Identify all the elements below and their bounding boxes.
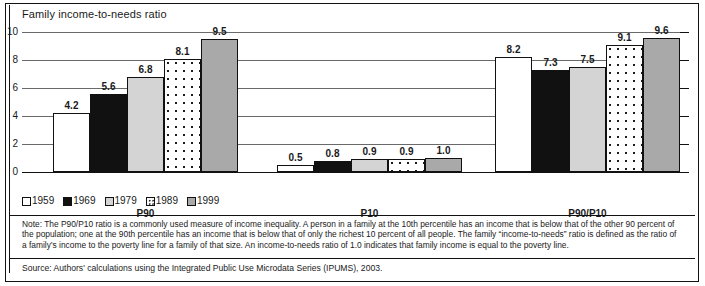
bar-1959-P90-P10[interactable]: [495, 57, 532, 172]
plot-area: 0246810P904.25.66.88.19.5P100.50.80.90.9…: [22, 32, 680, 172]
bar-1969-P10[interactable]: [314, 161, 351, 172]
divider-above-note: [10, 215, 695, 216]
figure-source: Source: Authors' calculations using the …: [22, 263, 682, 273]
bar-value-label: 8.2: [489, 45, 538, 55]
y-axis-tick-label: 0: [2, 167, 18, 177]
bar-1979-P90[interactable]: [127, 77, 164, 172]
plot-canvas: 0246810P904.25.66.88.19.5P100.50.80.90.9…: [22, 32, 680, 172]
y-axis-tick-mark: [680, 60, 689, 61]
y-axis-tick-label: 6: [2, 83, 18, 93]
bar-group: 4.25.66.88.19.5: [53, 32, 238, 172]
bar-value-label: 5.6: [84, 82, 133, 92]
legend-swatch-icon: [187, 197, 196, 206]
axis-baseline: [22, 172, 680, 173]
y-axis-tick-label: 2: [2, 139, 18, 149]
chart-title: Family income-to-needs ratio: [22, 8, 167, 20]
y-axis-tick-label: 8: [2, 55, 18, 65]
bar-1959-P90[interactable]: [53, 113, 90, 172]
bar-1959-P10[interactable]: [277, 165, 314, 172]
legend-swatch-icon: [105, 197, 114, 206]
bar-1979-P90-P10[interactable]: [569, 67, 606, 172]
y-axis-tick-label: 4: [2, 111, 18, 121]
bar-1999-P90-P10[interactable]: [643, 38, 680, 172]
legend-swatch-icon: [63, 197, 72, 206]
bar-value-label: 4.2: [47, 101, 96, 111]
legend-swatch-icon: [146, 197, 155, 206]
bar-group: 0.50.80.90.91.0: [277, 32, 462, 172]
bar-value-label: 1.0: [419, 146, 468, 156]
bar-1989-P90[interactable]: [164, 59, 201, 172]
bar-1989-P10[interactable]: [388, 159, 425, 172]
legend-item-1959[interactable]: 1959: [22, 196, 54, 206]
chart-legend: 19591969197919891999: [22, 196, 219, 206]
bar-group: 8.27.37.59.19.6: [495, 32, 680, 172]
bar-1979-P10[interactable]: [351, 159, 388, 172]
legend-label: 1969: [73, 196, 95, 206]
legend-item-1999[interactable]: 1999: [187, 196, 219, 206]
legend-swatch-icon: [22, 197, 31, 206]
bar-1969-P90[interactable]: [90, 94, 127, 172]
legend-item-1989[interactable]: 1989: [146, 196, 178, 206]
legend-item-1979[interactable]: 1979: [105, 196, 137, 206]
x-axis-group-label: P10: [277, 208, 462, 219]
bar-value-label: 9.6: [637, 26, 686, 36]
legend-item-1969[interactable]: 1969: [63, 196, 95, 206]
figure-note: Note: The P90/P10 ratio is a commonly us…: [22, 219, 682, 250]
bar-1969-P90-P10[interactable]: [532, 70, 569, 172]
y-axis-tick-mark: [680, 172, 689, 173]
bar-1999-P10[interactable]: [425, 158, 462, 172]
bar-value-label: 9.5: [195, 27, 244, 37]
x-axis-group-label: P90/P10: [495, 208, 680, 219]
bar-1999-P90[interactable]: [201, 39, 238, 172]
bar-value-label: 6.8: [121, 65, 170, 75]
divider-above-source: [10, 258, 695, 259]
bar-1989-P90-P10[interactable]: [606, 45, 643, 172]
legend-label: 1989: [156, 196, 178, 206]
figure-panel: Family income-to-needs ratio 0246810P904…: [0, 0, 705, 286]
y-axis-tick-mark: [680, 88, 689, 89]
bar-value-label: 8.1: [158, 47, 207, 57]
x-axis-group-label: P90: [53, 208, 238, 219]
legend-label: 1959: [32, 196, 54, 206]
legend-label: 1999: [197, 196, 219, 206]
y-axis-tick-mark: [680, 116, 689, 117]
y-axis-tick-mark: [680, 144, 689, 145]
legend-label: 1979: [115, 196, 137, 206]
bar-value-label: 7.5: [563, 55, 612, 65]
y-axis-tick-label: 10: [2, 27, 18, 37]
